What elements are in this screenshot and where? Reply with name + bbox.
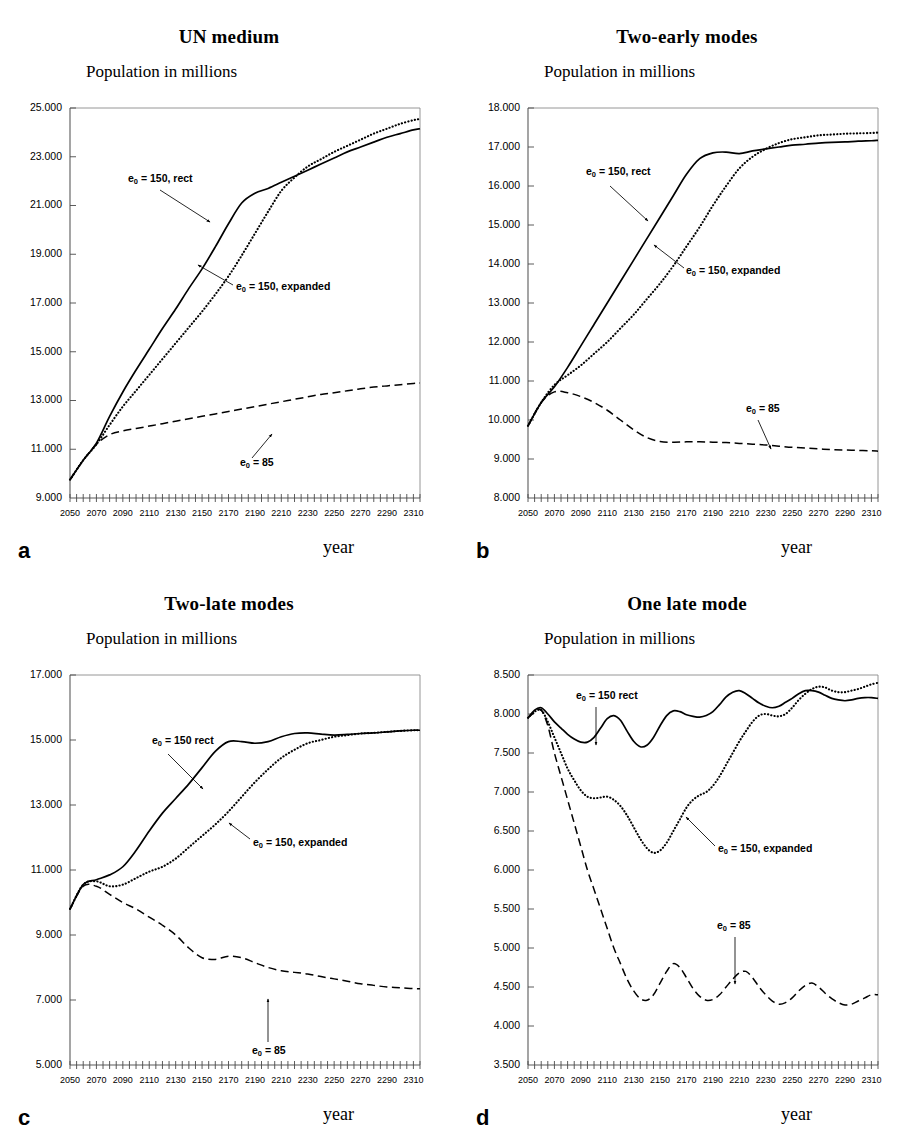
x-tick-label: 2210 [271,508,291,518]
series-annotation-label: e0 = 85 [252,1044,286,1058]
x-tick-label: 2130 [166,1075,186,1085]
x-tick-label: 2210 [729,508,749,518]
y-tick-label: 17.000 [30,296,62,308]
x-tick-label: 2290 [377,1075,397,1085]
x-tick-label: 2190 [245,1075,265,1085]
x-tick-label: 2170 [218,1075,238,1085]
series-annotation-label: e0 = 150, rect [128,172,193,186]
y-tick-label: 7.000 [36,993,62,1005]
x-tick-label: 2070 [544,508,564,518]
y-tick-label: 9.000 [36,491,62,503]
x-tick-label: 2130 [166,508,186,518]
x-tick-label: 2090 [571,1075,591,1085]
x-tick-label: 2170 [676,1075,696,1085]
annotation-leader-line [252,434,272,458]
x-tick-label: 2250 [782,1075,802,1085]
x-tick-label: 2130 [624,1075,644,1085]
x-tick-label: 2090 [113,508,133,518]
y-tick-label: 11.000 [489,374,520,386]
x-tick-label: 2250 [324,508,344,518]
series-line [528,683,878,853]
series-annotation-label: e0 = 85 [240,456,274,470]
y-tick-label: 23.000 [30,150,62,162]
x-tick-label: 2050 [518,1075,538,1085]
series-annotation-label: e0 = 150 rect [576,689,638,703]
y-tick-label: 8.500 [494,668,520,680]
y-tick-label: 8.000 [494,707,520,719]
x-tick-label: 2310 [861,508,881,518]
y-tick-label: 13.000 [30,798,62,810]
y-tick-label: 10.000 [488,413,520,425]
y-tick-label: 7.000 [494,785,520,797]
series-annotation-label: e0 = 150, expanded [718,842,812,856]
series-line [528,391,878,451]
y-tick-label: 17.000 [30,668,62,680]
series-line [528,133,878,426]
x-tick-label: 2270 [809,508,829,518]
x-tick-label: 2310 [403,508,423,518]
panel-a-letter: a [18,538,30,564]
panel-c-x-axis-title: year [323,1104,354,1125]
series-line [70,129,420,480]
x-tick-label: 2230 [298,508,318,518]
series-annotation-label: e0 = 150, expanded [686,264,780,278]
x-tick-label: 2170 [676,508,696,518]
x-tick-label: 2110 [140,508,159,518]
x-tick-label: 2090 [571,508,591,518]
panel-c-letter: c [18,1105,30,1131]
annotation-leader-line [610,186,648,221]
x-tick-label: 2050 [60,1075,80,1085]
series-line [70,119,420,480]
y-tick-label: 11.000 [31,442,62,454]
y-tick-label: 7.500 [494,746,520,758]
x-tick-label: 2310 [861,1075,881,1085]
y-tick-label: 9.000 [494,452,520,464]
y-tick-label: 15.000 [30,733,62,745]
x-tick-label: 2270 [351,1075,371,1085]
series-annotation-label: e0 = 150, expanded [253,836,347,850]
panel-two-late-modes: Two-late modes Population in millions 5.… [0,567,458,1134]
y-tick-label: 12.000 [488,335,520,347]
x-tick-label: 2110 [598,1075,617,1085]
y-tick-label: 13.000 [488,296,520,308]
x-tick-label: 2110 [598,508,617,518]
series-line [528,140,878,425]
panel-b-letter: b [476,538,489,564]
series-annotation-label: e0 = 85 [746,402,780,416]
panel-a-plot: 9.00011.00013.00015.00017.00019.00021.00… [0,0,458,567]
x-tick-label: 2270 [351,508,371,518]
x-tick-label: 2130 [624,508,644,518]
x-tick-label: 2210 [729,1075,749,1085]
y-tick-label: 5.000 [494,941,520,953]
x-tick-label: 2290 [835,1075,855,1085]
annotation-leader-line [168,754,203,789]
series-line [70,730,420,909]
series-annotation-label: e0 = 150 rect [152,734,214,748]
x-tick-label: 2170 [218,508,238,518]
x-tick-label: 2210 [271,1075,291,1085]
x-tick-label: 2110 [140,1075,159,1085]
panel-a-x-axis-title: year [323,537,354,558]
y-tick-label: 4.000 [494,1019,520,1031]
y-tick-label: 5.500 [494,902,520,914]
y-tick-label: 8.000 [494,491,520,503]
x-tick-label: 2290 [835,508,855,518]
annotation-leader-line [654,245,684,268]
y-tick-label: 13.000 [30,393,62,405]
annotation-leader-line [198,265,233,285]
x-tick-label: 2070 [544,1075,564,1085]
annotation-leader-line [229,823,250,839]
y-tick-label: 5.000 [36,1058,62,1070]
annotation-leader-line [160,190,210,222]
y-tick-label: 3.500 [494,1058,520,1070]
series-line [528,709,878,1005]
x-tick-label: 2230 [756,1075,776,1085]
y-tick-label: 18.000 [488,101,520,113]
y-tick-label: 6.000 [494,863,520,875]
x-tick-label: 2070 [86,1075,106,1085]
panel-b-plot: 8.0009.00010.00011.00012.00013.00014.000… [458,0,916,567]
y-tick-label: 17.000 [488,140,520,152]
series-annotation-label: e0 = 150, expanded [236,280,330,294]
series-annotation-label: e0 = 150, rect [586,165,651,179]
x-tick-label: 2050 [60,508,80,518]
